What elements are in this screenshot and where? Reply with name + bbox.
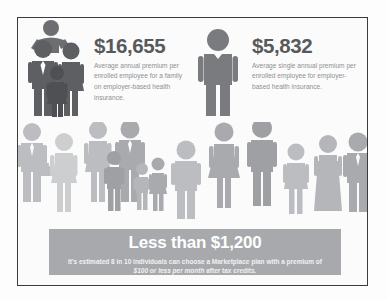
stat-amount-single: $5,832 bbox=[252, 36, 356, 57]
infographic-frame: $16,655 Average annual premium per enrol… bbox=[17, 17, 368, 286]
marketplace-banner: Less than $1,200 It's estimated 8 in 10 … bbox=[49, 229, 341, 275]
family-of-four-icon bbox=[24, 18, 90, 118]
banner-subtitle-emphasis: $100 or less per month bbox=[134, 267, 205, 274]
banner-subtitle: It's estimated 8 in 10 individuals can c… bbox=[61, 257, 329, 277]
stat-text-family: $16,655 Average annual premium per enrol… bbox=[94, 36, 190, 103]
figure-businessman bbox=[18, 123, 53, 202]
figure-woman-2 bbox=[208, 123, 240, 209]
stat-amount-family: $16,655 bbox=[94, 36, 190, 57]
figure-girl bbox=[149, 158, 167, 212]
banner-subtitle-after: after tax credits. bbox=[204, 267, 256, 274]
figure-woman-gown bbox=[314, 135, 342, 211]
crowd-of-people-illustration bbox=[18, 122, 368, 222]
statistics-row: $16,655 Average annual premium per enrol… bbox=[18, 18, 368, 122]
figure-toddler bbox=[134, 163, 152, 210]
banner-subtitle-before: It's estimated 8 in 10 individuals can c… bbox=[68, 258, 322, 265]
figure-man-center bbox=[171, 141, 201, 220]
figure-man-tall bbox=[247, 122, 277, 206]
stat-text-single: $5,832 Average single annual premium per… bbox=[252, 36, 356, 93]
banner-title: Less than $1,200 bbox=[61, 234, 329, 253]
figure-young-woman bbox=[283, 144, 309, 215]
figure-mother bbox=[84, 122, 112, 202]
single-person-icon bbox=[194, 18, 242, 118]
figure-man-suit bbox=[343, 133, 368, 213]
stat-description-single: Average single annual premium per enroll… bbox=[252, 61, 356, 93]
scanned-page: $16,655 Average annual premium per enrol… bbox=[0, 0, 388, 300]
crowd-figures bbox=[18, 122, 368, 222]
figure-woman-1 bbox=[50, 133, 78, 212]
stat-description-family: Average annual premium per enrolled empl… bbox=[94, 61, 190, 104]
